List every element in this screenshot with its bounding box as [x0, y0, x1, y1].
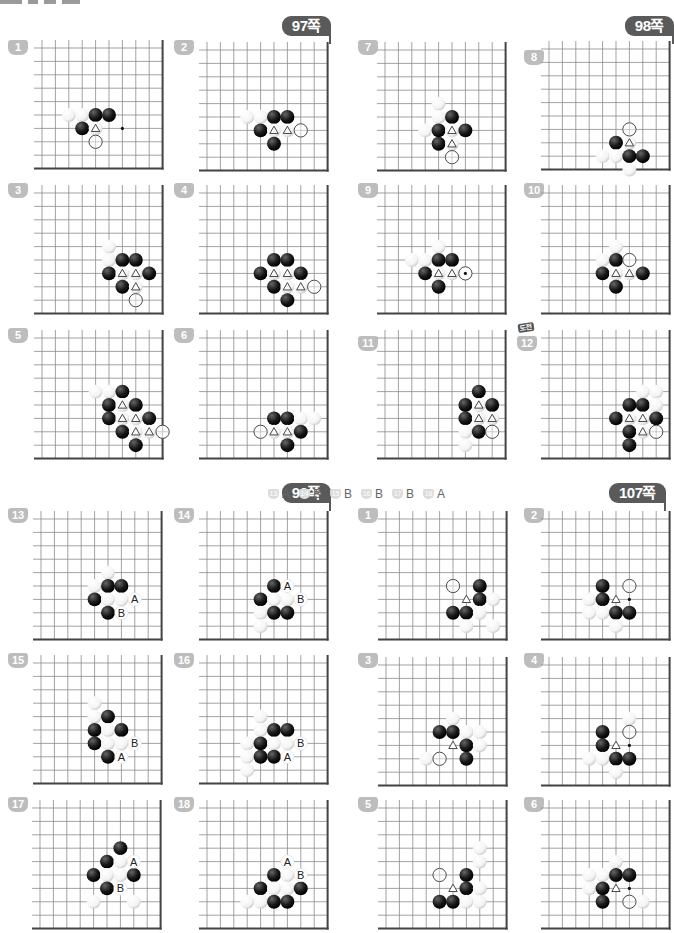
answer-item: 13A: [268, 487, 290, 501]
white-stone: [486, 619, 500, 633]
problem-number-badge: 16: [174, 653, 194, 668]
black-stone: [129, 398, 143, 412]
black-stone: [280, 293, 294, 307]
go-board: AB: [199, 800, 330, 931]
white-stone: [473, 606, 487, 620]
triangle-mark-icon: [612, 741, 620, 748]
black-stone: [649, 411, 663, 425]
white-stone: [596, 868, 610, 882]
black-stone: [280, 723, 294, 737]
white-stone: [113, 868, 127, 882]
board-grid: [199, 185, 329, 315]
black-stone: [280, 253, 294, 267]
black-stone: [294, 881, 308, 895]
white-stone: [432, 110, 446, 124]
go-board: BA: [199, 655, 330, 786]
white-stone: [114, 736, 128, 750]
black-stone: [129, 253, 143, 267]
white-stone: [240, 736, 254, 750]
white-stone: [459, 725, 473, 739]
white-stone: [609, 240, 623, 254]
black-stone: [75, 121, 89, 135]
white-stone: [405, 253, 419, 267]
white-stone: [458, 438, 472, 452]
white-stone: [88, 579, 102, 593]
point-label: B: [118, 607, 125, 619]
black-stone: [102, 398, 116, 412]
white-stone: [280, 592, 294, 606]
problem-number-badge: 2: [174, 40, 194, 55]
black-stone: [473, 592, 487, 606]
board-grid: [199, 800, 329, 930]
black-stone: [114, 579, 128, 593]
board-grid: [378, 800, 508, 930]
black-stone: [102, 411, 116, 425]
white-stone: [458, 425, 472, 439]
go-board: [34, 330, 165, 461]
go-board: [199, 330, 330, 461]
answer-value: B: [406, 487, 414, 501]
board-grid: [34, 40, 164, 170]
black-stone: [142, 266, 156, 280]
white-stone: [432, 240, 446, 254]
white-stone: [582, 752, 596, 766]
black-stone: [446, 606, 460, 620]
go-board: [378, 511, 509, 642]
white-stone: [267, 881, 281, 895]
answer-value: B: [375, 487, 383, 501]
white-stone: [267, 592, 281, 606]
problem-number-badge: 5: [8, 328, 28, 343]
problem-number-icon: 18: [423, 489, 434, 499]
white-stone: [596, 253, 610, 267]
answer-item: 17B: [392, 487, 414, 501]
problem-number-badge: 3: [358, 653, 378, 668]
white-stone: [294, 411, 308, 425]
problem-number-icon: 13: [268, 489, 279, 499]
black-stone: [115, 425, 129, 439]
black-stone: [280, 438, 294, 452]
black-stone: [433, 725, 447, 739]
white-stone: [459, 895, 473, 909]
black-stone: [267, 137, 281, 151]
page-number-badge: 97쪽: [282, 16, 331, 36]
black-stone: [101, 750, 115, 764]
black-stone: [609, 136, 623, 150]
white-stone: [473, 881, 487, 895]
black-stone: [114, 723, 128, 737]
black-stone: [446, 895, 460, 909]
white-stone: [267, 736, 281, 750]
point-label: A: [284, 856, 292, 868]
black-stone: [113, 841, 127, 855]
black-stone: [100, 881, 114, 895]
black-stone: [636, 398, 650, 412]
white-stone: [473, 895, 487, 909]
triangle-mark-icon: [462, 595, 470, 602]
black-stone: [254, 123, 268, 137]
black-stone: [636, 149, 650, 163]
white-stone: [582, 606, 596, 620]
white-stone: [280, 881, 294, 895]
black-stone: [267, 110, 281, 124]
problem-number-icon: 16: [361, 489, 372, 499]
white-stone: [280, 868, 294, 882]
black-stone: [254, 881, 268, 895]
answer-item: 15B: [330, 487, 352, 501]
black-stone: [622, 425, 636, 439]
go-board: AB: [199, 511, 330, 642]
answer-item: 18A: [423, 487, 445, 501]
white-stone: [101, 566, 115, 580]
board-grid: [199, 330, 329, 460]
black-stone: [596, 725, 610, 739]
black-stone: [100, 855, 114, 869]
white-stone: [62, 108, 76, 122]
black-stone: [433, 895, 447, 909]
black-stone: [458, 123, 472, 137]
white-stone: [254, 606, 268, 620]
black-stone: [142, 411, 156, 425]
problem-number-icon: 14: [299, 489, 310, 499]
white-stone: [102, 253, 116, 267]
black-stone: [101, 579, 115, 593]
black-stone: [418, 266, 432, 280]
black-stone: [267, 723, 281, 737]
black-stone: [485, 398, 499, 412]
